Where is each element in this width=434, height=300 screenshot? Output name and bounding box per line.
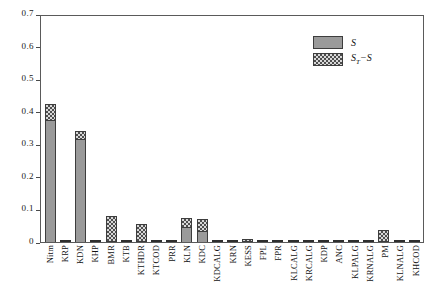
bar-stack[interactable] bbox=[151, 240, 162, 242]
bar-segment-st-minus-s[interactable] bbox=[242, 239, 253, 242]
x-axis-label-text: KTCOD bbox=[151, 245, 161, 275]
bar-stack[interactable] bbox=[257, 240, 268, 242]
bar-column[interactable] bbox=[257, 16, 268, 242]
bar-zero-stub bbox=[227, 240, 238, 242]
bar-column[interactable] bbox=[227, 16, 238, 242]
y-axis-tick-label: 0.7 bbox=[22, 8, 34, 18]
bar-stack[interactable] bbox=[75, 131, 86, 242]
y-axis-tick-label: 0.3 bbox=[22, 138, 34, 148]
x-axis-label-text: FPL bbox=[258, 245, 268, 260]
bar-column[interactable] bbox=[212, 16, 223, 242]
bar-segment-s[interactable] bbox=[75, 139, 86, 242]
x-axis-label: PRR bbox=[166, 245, 177, 300]
legend-label-s: S bbox=[351, 37, 356, 48]
x-axis-label: Nitm bbox=[44, 245, 55, 300]
bar-column[interactable] bbox=[151, 16, 162, 242]
x-axis-label: KLN bbox=[181, 245, 192, 300]
bar-segment-st-minus-s[interactable] bbox=[75, 131, 86, 139]
bar-stack[interactable] bbox=[318, 240, 329, 242]
legend-swatch-s-icon bbox=[313, 36, 343, 49]
bar-segment-st-minus-s[interactable] bbox=[181, 218, 192, 227]
bar-column[interactable] bbox=[181, 16, 192, 242]
bar-column[interactable] bbox=[242, 16, 253, 242]
x-axis-label: PM bbox=[380, 245, 391, 300]
bar-column[interactable] bbox=[272, 16, 283, 242]
bar-stack[interactable] bbox=[333, 240, 344, 242]
x-axis-label: FPL bbox=[258, 245, 269, 300]
bar-zero-stub bbox=[333, 240, 344, 242]
bar-column[interactable] bbox=[197, 16, 208, 242]
x-axis-label: KDCALG bbox=[212, 245, 223, 300]
x-axis-label-text: KDN bbox=[75, 245, 85, 264]
legend-item-s: S bbox=[313, 36, 409, 49]
bar-column[interactable] bbox=[288, 16, 299, 242]
bar-segment-s[interactable] bbox=[45, 120, 56, 242]
x-axis-label: KRN bbox=[227, 245, 238, 300]
bar-stack[interactable] bbox=[272, 240, 283, 242]
bar-stack[interactable] bbox=[288, 240, 299, 242]
bar-stack[interactable] bbox=[409, 240, 420, 242]
bar-zero-stub bbox=[288, 240, 299, 242]
bar-stack[interactable] bbox=[378, 230, 389, 242]
x-axis-label-text: KHP bbox=[90, 245, 100, 263]
y-axis-tick-label: 0.2 bbox=[22, 171, 34, 181]
bar-stack[interactable] bbox=[227, 240, 238, 242]
x-axis-label-text: KRCALG bbox=[304, 245, 314, 281]
bar-stack[interactable] bbox=[90, 240, 101, 242]
x-axis-label-text: FPR bbox=[273, 245, 283, 261]
bar-segment-s[interactable] bbox=[197, 231, 208, 242]
x-axis-label-text: Nitm bbox=[45, 245, 55, 263]
bar-zero-stub bbox=[272, 240, 283, 242]
x-axis-label: KHP bbox=[90, 245, 101, 300]
x-axis-label: KRNALG bbox=[364, 245, 375, 300]
bar-column[interactable] bbox=[75, 16, 86, 242]
bar-column[interactable] bbox=[45, 16, 56, 242]
bar-column[interactable] bbox=[166, 16, 177, 242]
bar-stack[interactable] bbox=[394, 240, 405, 242]
x-axis-label-text: KLN bbox=[182, 245, 192, 263]
bar-stack[interactable] bbox=[348, 240, 359, 242]
y-axis-tick-label: 0.6 bbox=[22, 41, 34, 51]
x-axis-label-text: KRN bbox=[228, 245, 238, 264]
x-axis-label-text: PRR bbox=[167, 245, 177, 262]
y-axis: 0.70.60.50.40.30.20.10 bbox=[0, 15, 40, 243]
bar-stack[interactable] bbox=[106, 216, 117, 242]
bar-stack[interactable] bbox=[212, 240, 223, 242]
bar-column[interactable] bbox=[303, 16, 314, 242]
x-axis-label-text: KLCALG bbox=[289, 245, 299, 281]
bar-stack[interactable] bbox=[166, 240, 177, 242]
bar-segment-st-minus-s[interactable] bbox=[197, 219, 208, 230]
bar-stack[interactable] bbox=[45, 104, 56, 242]
x-axis-label-text: KRNALG bbox=[365, 245, 375, 282]
bar-stack[interactable] bbox=[242, 239, 253, 242]
bar-column[interactable] bbox=[90, 16, 101, 242]
x-axis-label-text: KTB bbox=[121, 245, 131, 263]
bar-stack[interactable] bbox=[60, 240, 71, 242]
x-axis-label: KRP bbox=[59, 245, 70, 300]
x-axis-label: BMR bbox=[105, 245, 116, 300]
bar-zero-stub bbox=[166, 240, 177, 242]
bar-stack[interactable] bbox=[363, 240, 374, 242]
bar-column[interactable] bbox=[409, 16, 420, 242]
y-axis-tick-label: 0.4 bbox=[22, 106, 34, 116]
bar-stack[interactable] bbox=[136, 224, 147, 242]
bar-column[interactable] bbox=[136, 16, 147, 242]
bar-column[interactable] bbox=[106, 16, 117, 242]
bar-segment-s[interactable] bbox=[181, 227, 192, 242]
x-axis-label-text: KLNALG bbox=[395, 245, 405, 281]
x-axis-label-text: ANC bbox=[334, 245, 344, 264]
bar-column[interactable] bbox=[60, 16, 71, 242]
bar-segment-st-minus-s[interactable] bbox=[136, 224, 147, 242]
bar-segment-st-minus-s[interactable] bbox=[106, 216, 117, 242]
bar-stack[interactable] bbox=[181, 218, 192, 242]
chart-legend: S ST−S bbox=[313, 36, 409, 66]
bar-stack[interactable] bbox=[303, 240, 314, 242]
bar-stack[interactable] bbox=[121, 240, 132, 242]
x-axis-label: KDC bbox=[197, 245, 208, 300]
y-axis-tick-label: 0.5 bbox=[22, 73, 34, 83]
x-axis-label-text: KDC bbox=[197, 245, 207, 264]
bar-segment-st-minus-s[interactable] bbox=[45, 104, 56, 120]
bar-column[interactable] bbox=[121, 16, 132, 242]
bar-segment-st-minus-s[interactable] bbox=[378, 230, 389, 242]
bar-stack[interactable] bbox=[197, 219, 208, 242]
